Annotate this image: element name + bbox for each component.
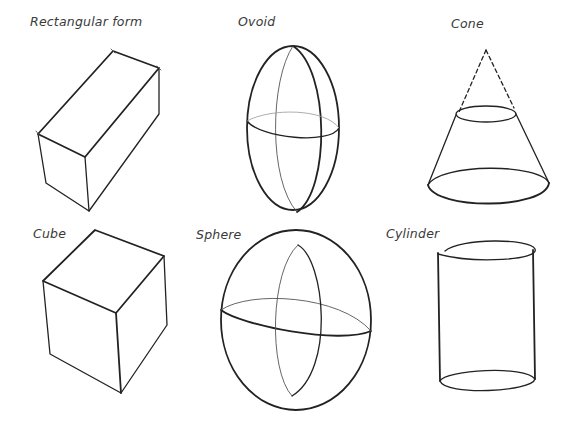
drawing-sheet: Rectangular form Ovoid Cone Cube Sphere … [0, 0, 578, 422]
cylinder-drawing [438, 241, 535, 391]
rectangular-form-drawing [36, 49, 161, 211]
ovoid-drawing [247, 46, 339, 212]
cone-drawing [428, 50, 549, 204]
sphere-drawing [221, 230, 371, 410]
cube-drawing [43, 230, 167, 393]
shapes-illustration [0, 0, 578, 422]
